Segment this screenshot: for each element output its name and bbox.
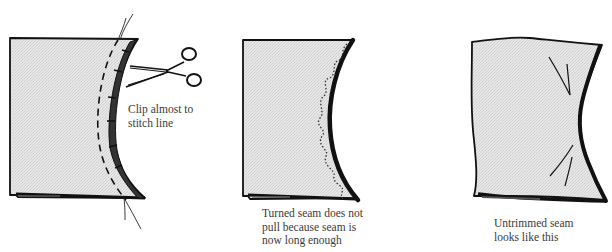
scissors-icon xyxy=(124,40,204,100)
panel-turned: Turned seam does not pull because seam i… xyxy=(230,0,410,252)
clip-fabric-illustration xyxy=(0,0,230,252)
caption-untrimmed: Untrimmed seam looks like this xyxy=(494,217,574,244)
panel-untrimmed: Untrimmed seam looks like this xyxy=(410,0,612,252)
untrimmed-fabric-illustration xyxy=(410,0,612,252)
panel-clip: Clip almost to stitch line xyxy=(0,0,230,252)
caption-clip: Clip almost to stitch line xyxy=(128,103,193,130)
caption-turned: Turned seam does not pull because seam i… xyxy=(262,207,363,248)
